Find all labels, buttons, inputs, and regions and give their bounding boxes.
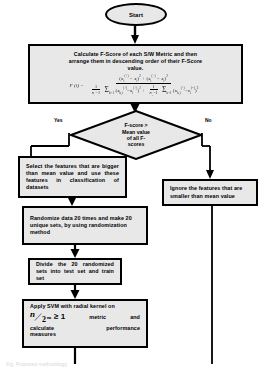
node-randomize-text: Randomize data 20 times and make 20 uniq…	[27, 215, 143, 236]
formula-denominator: 1n+−1 Σk=1 (xk,i(+)−xi(+))2 + 1n−−1 Σk=1…	[86, 84, 202, 97]
decision-line4: scores	[101, 141, 171, 147]
fscore-formula: F (i) = (xi(+) − xi)2 + (xi(−) − xi)2 1n…	[69, 74, 201, 96]
flowchart-canvas: Start Calculate F-Score of each S/W Metr…	[0, 0, 271, 370]
svm-fraction: n ⁄ 2 m	[30, 309, 52, 324]
node-decision-fscore[interactable]: F-score > Mean value of all F- scores	[70, 110, 202, 160]
node-calculate-fscore[interactable]: Calculate F-Score of each S/W Metric and…	[28, 44, 243, 104]
svm-fraction-numerator: n	[30, 309, 35, 319]
node-divide[interactable]: Divide the 20 randomized sets into test …	[28, 258, 122, 285]
node-calculate-fscore-line1: Calculate F-Score of each S/W Metric and…	[74, 51, 197, 58]
node-start-label: Start	[129, 12, 143, 18]
node-select-features[interactable]: Select the features that are bigger than…	[18, 156, 127, 198]
svm-fraction-slash: ⁄	[36, 310, 40, 325]
node-apply-svm-line4: measures	[27, 331, 143, 337]
svm-and-label: and	[130, 314, 140, 320]
node-start[interactable]: Start	[105, 3, 167, 26]
edge-label-yes: Yes	[54, 117, 63, 123]
node-apply-svm-line2: n ⁄ 2 m ≥ 1 metric and	[27, 309, 143, 324]
node-select-features-text: Select the features that are bigger than…	[23, 163, 122, 192]
formula-lhs: F (i) =	[69, 83, 83, 88]
node-randomize[interactable]: Randomize data 20 times and make 20 uniq…	[22, 206, 148, 245]
svm-fraction-denominator: 2	[42, 315, 46, 324]
node-divide-text: Divide the 20 randomized sets into test …	[33, 261, 117, 282]
node-ignore-features-text: Ignore the features that are smaller tha…	[167, 185, 253, 199]
node-calculate-fscore-line3: value.	[128, 65, 144, 72]
formula-numerator: (xi(+) − xi)2 + (xi(−) − xi)2	[116, 74, 171, 84]
svm-comparator: ≥ 1	[54, 312, 65, 321]
node-calculate-fscore-line2: arrange them in descending order of thei…	[69, 58, 202, 65]
formula-fraction: (xi(+) − xi)2 + (xi(−) − xi)2 1n+−1 Σk=1…	[86, 74, 202, 96]
svm-fraction-exponent: m	[47, 315, 51, 320]
node-apply-svm[interactable]: Apply SVM with radial kernel on n ⁄ 2 m …	[22, 299, 148, 348]
node-decision-text: F-score > Mean value of all F- scores	[101, 122, 171, 147]
edge-label-no: No	[205, 117, 212, 123]
svm-measures-label: measures	[30, 331, 56, 337]
node-ignore-features[interactable]: Ignore the features that are smaller tha…	[162, 179, 258, 206]
figure-caption: Fig. Proposed methodology	[6, 361, 67, 367]
svm-metric-label: metric	[89, 314, 106, 320]
